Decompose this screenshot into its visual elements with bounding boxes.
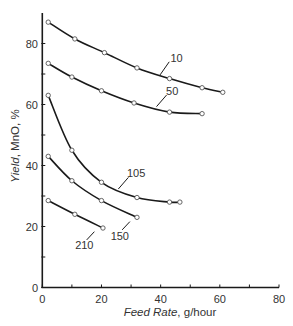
x-axis-title-italic: Feed Rate — [124, 306, 178, 318]
y-axis-title-italic: Yield — [9, 157, 21, 183]
series-label-105: 105 — [127, 167, 145, 179]
series-curve — [48, 95, 180, 202]
data-point-marker — [135, 66, 139, 70]
data-point-marker — [135, 195, 139, 199]
data-point-marker — [99, 198, 103, 202]
series-label-leader-line — [118, 177, 128, 189]
series-label-leader-line — [160, 62, 169, 75]
data-point-marker — [167, 110, 171, 114]
data-point-marker — [46, 198, 50, 202]
series-210 — [46, 198, 105, 230]
series-label-leader-line — [157, 95, 167, 107]
y-tick-label: 80 — [26, 38, 38, 50]
y-tick-label: 40 — [26, 160, 38, 172]
data-point-marker — [46, 20, 50, 24]
data-point-marker — [73, 37, 77, 41]
x-axis-title-unit: , g/hour — [177, 306, 216, 318]
series-curve — [48, 63, 202, 113]
y-tick-label: 0 — [32, 282, 38, 294]
series-label-150: 150 — [111, 230, 129, 242]
y-axis-title: Yield, MnO, % — [9, 109, 21, 182]
y-tick-label: 60 — [26, 99, 38, 111]
yield-vs-feed-rate-chart: 020406080 020406080 1050105150210 Feed R… — [0, 0, 293, 326]
data-point-marker — [101, 226, 105, 230]
data-point-marker — [46, 61, 50, 65]
data-point-marker — [167, 76, 171, 80]
data-point-marker — [178, 200, 182, 204]
x-tick-label: 20 — [95, 293, 107, 305]
series-50 — [46, 61, 204, 116]
data-point-marker — [99, 180, 103, 184]
data-point-marker — [200, 86, 204, 90]
x-tick-label: 60 — [214, 293, 226, 305]
y-axis-title-unit: , MnO, % — [9, 109, 21, 157]
series-label-leader-line — [122, 222, 130, 230]
data-point-marker — [70, 179, 74, 183]
series-curve — [48, 22, 223, 92]
series-labels: 1050105150210 — [75, 52, 183, 251]
series-label-10: 10 — [171, 52, 183, 64]
x-axis-title: Feed Rate, g/hour — [124, 306, 217, 318]
data-point-marker — [46, 93, 50, 97]
data-point-marker — [221, 90, 225, 94]
series-group — [46, 20, 225, 230]
x-tick-label: 40 — [155, 293, 167, 305]
x-tick-label: 80 — [273, 293, 285, 305]
data-point-marker — [135, 215, 139, 219]
data-point-marker — [132, 101, 136, 105]
series-10 — [46, 20, 225, 95]
x-tick-label: 0 — [39, 293, 45, 305]
data-point-marker — [70, 75, 74, 79]
series-label-210: 210 — [75, 239, 93, 251]
data-point-marker — [200, 111, 204, 115]
data-point-marker — [73, 212, 77, 216]
data-point-marker — [102, 50, 106, 54]
y-tick-label: 20 — [26, 221, 38, 233]
data-point-marker — [46, 154, 50, 158]
data-point-marker — [99, 89, 103, 93]
data-point-marker — [167, 200, 171, 204]
series-150 — [46, 154, 139, 219]
series-label-50: 50 — [166, 85, 178, 97]
data-point-marker — [70, 148, 74, 152]
